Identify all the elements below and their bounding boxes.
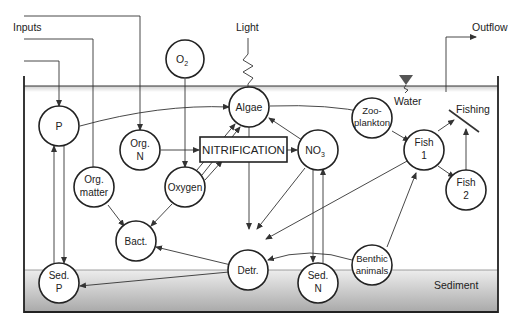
water-label: Water (394, 95, 422, 107)
sediment-label: Sediment (434, 279, 478, 291)
svg-text:N: N (136, 151, 143, 162)
svg-text:1: 1 (421, 150, 427, 161)
svg-text:P: P (55, 120, 62, 132)
node-fish-2: Fish 2 (446, 170, 486, 210)
svg-text:plankton: plankton (354, 117, 390, 128)
svg-text:2: 2 (463, 190, 469, 201)
svg-text:P: P (56, 283, 63, 294)
node-sed-p: Sed. P (39, 263, 79, 303)
node-zooplankton: Zoo- plankton (352, 98, 392, 138)
node-oxygen: Oxygen (165, 167, 205, 207)
svg-text:N: N (314, 283, 321, 294)
svg-text:Sed.: Sed. (308, 270, 329, 281)
svg-text:Org.: Org. (130, 138, 149, 149)
node-benthic-animals: Benthic animals (352, 245, 392, 285)
inputs-label: Inputs (13, 21, 42, 33)
nitrification-box: NITRIFICATION (200, 137, 287, 162)
node-p: P (39, 106, 79, 146)
node-o2: O2 (166, 40, 204, 78)
svg-text:Oxygen: Oxygen (168, 182, 202, 193)
fishing-label: Fishing (456, 103, 490, 115)
node-bact: Bact. (116, 221, 156, 261)
node-fish-1: Fish 1 (404, 130, 444, 170)
svg-text:Algae: Algae (236, 101, 263, 113)
node-detr: Detr. (228, 250, 268, 290)
svg-text:Detr.: Detr. (237, 265, 258, 276)
svg-text:Fish: Fish (457, 177, 476, 188)
svg-text:Org.: Org. (84, 174, 103, 185)
svg-text:Zoo-: Zoo- (362, 105, 382, 116)
node-org-matter: Org. matter (74, 167, 114, 207)
svg-text:Benthic: Benthic (356, 253, 388, 264)
svg-text:Sed.: Sed. (49, 270, 70, 281)
light-label: Light (236, 21, 259, 33)
ecosystem-diagram: NITRIFICATION O2 Algae P Org. N NO3 Zoo-… (0, 0, 520, 326)
node-algae: Algae (229, 87, 269, 127)
outflow-label: Outflow (472, 21, 508, 33)
node-sed-n: Sed. N (298, 263, 338, 303)
svg-text:NITRIFICATION: NITRIFICATION (202, 144, 285, 156)
svg-text:Fish: Fish (415, 137, 434, 148)
svg-text:Bact.: Bact. (125, 236, 148, 247)
svg-text:matter: matter (80, 187, 109, 198)
svg-text:animals: animals (356, 265, 389, 276)
node-org-n: Org. N (120, 130, 160, 170)
node-no3: NO3 (298, 130, 338, 170)
water-level-icon (399, 75, 413, 85)
